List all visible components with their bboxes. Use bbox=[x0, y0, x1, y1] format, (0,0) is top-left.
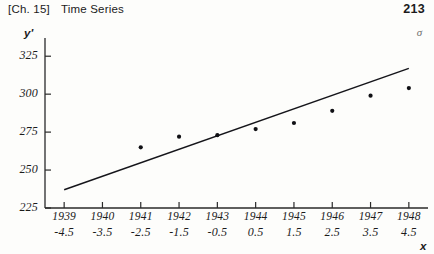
x-tick-year-label: 1941 bbox=[121, 210, 161, 222]
x-tick-code-label: 4.5 bbox=[389, 225, 429, 240]
chapter-marker: [Ch. 15] bbox=[8, 3, 50, 15]
x-tick-year-label: 1944 bbox=[236, 210, 276, 222]
x-tick-code-label: -3.5 bbox=[82, 225, 122, 240]
data-point bbox=[407, 86, 411, 90]
page-number: 213 bbox=[403, 2, 425, 16]
data-point bbox=[330, 109, 334, 113]
x-tick-code-label: -0.5 bbox=[197, 225, 237, 240]
x-tick-code-label: -1.5 bbox=[159, 225, 199, 240]
data-point bbox=[292, 121, 296, 125]
axes-group bbox=[45, 38, 428, 208]
x-tick-code-label: 0.5 bbox=[236, 225, 276, 240]
x-tick-code-label: -2.5 bbox=[121, 225, 161, 240]
x-tick-year-label: 1946 bbox=[312, 210, 352, 222]
y-tick-label: 300 bbox=[4, 86, 38, 101]
x-tick-year-label: 1940 bbox=[82, 210, 122, 222]
data-point bbox=[177, 135, 181, 139]
data-point-group bbox=[139, 86, 411, 149]
x-tick-code-label: 3.5 bbox=[351, 225, 391, 240]
x-tick-code-label: 2.5 bbox=[312, 225, 352, 240]
x-tick-year-label: 1947 bbox=[351, 210, 391, 222]
y-tick-label: 225 bbox=[4, 200, 38, 215]
x-tick-group bbox=[64, 202, 409, 208]
y-tick-label: 325 bbox=[4, 48, 38, 63]
data-point bbox=[254, 127, 258, 131]
x-tick-year-label: 1942 bbox=[159, 210, 199, 222]
time-series-chart: y' x 225250275300325 1939-4.51940-3.5194… bbox=[0, 22, 434, 222]
x-tick-year-label: 1945 bbox=[274, 210, 314, 222]
x-tick-year-label: 1943 bbox=[197, 210, 237, 222]
x-tick-code-label: 1.5 bbox=[274, 225, 314, 240]
y-tick-label: 250 bbox=[4, 162, 38, 177]
data-point bbox=[215, 133, 219, 137]
data-point bbox=[139, 145, 143, 149]
x-tick-year-label: 1948 bbox=[389, 210, 429, 222]
y-tick-group bbox=[45, 56, 51, 208]
x-tick-code-label: -4.5 bbox=[44, 225, 84, 240]
running-head: [Ch. 15]Time Series bbox=[8, 3, 124, 15]
x-tick-year-label: 1939 bbox=[44, 210, 84, 222]
chapter-title: Time Series bbox=[61, 3, 124, 15]
y-tick-label: 275 bbox=[4, 124, 38, 139]
data-point bbox=[368, 94, 372, 98]
trend-line bbox=[64, 68, 409, 189]
